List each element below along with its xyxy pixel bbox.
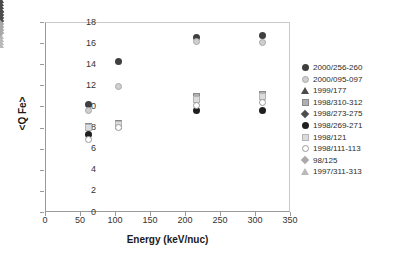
legend-item[interactable]: 1998/310-312 <box>300 97 393 108</box>
y-axis-tick-label: 2 <box>56 186 96 195</box>
marker-glyph <box>302 134 309 141</box>
legend-marker-icon <box>300 155 310 166</box>
y-axis-tick-mark <box>40 191 44 192</box>
y-axis-tick-mark <box>40 64 44 65</box>
legend-item-label: 1997/311-313 <box>313 166 362 177</box>
chart-legend: 2000/256-2602000/095-0971999/1771998/310… <box>300 62 393 178</box>
legend-item-label: 1998/273-275 <box>313 108 362 119</box>
x-axis-tick-label: 350 <box>270 216 310 225</box>
legend-marker-icon <box>300 132 310 143</box>
data-point <box>85 136 92 143</box>
y-axis-tick-mark <box>40 212 44 213</box>
y-axis-title: <Q Fe> <box>17 54 28 174</box>
legend-item-label: 1998/310-312 <box>313 97 362 108</box>
data-point <box>193 102 200 109</box>
x-axis-tick-mark <box>115 212 116 216</box>
x-axis-tick-label: 100 <box>95 216 135 225</box>
y-axis-tick-label: 14 <box>56 60 96 69</box>
x-axis-tick-mark <box>255 212 256 216</box>
legend-item-label: 2000/256-260 <box>313 62 362 73</box>
legend-item[interactable]: 1998/121 <box>300 132 393 143</box>
marker-glyph <box>301 156 309 164</box>
x-axis-tick-mark <box>290 212 291 216</box>
marker-glyph <box>302 64 309 71</box>
data-point <box>115 83 122 90</box>
data-point <box>115 124 122 131</box>
x-axis-tick-label: 150 <box>130 216 170 225</box>
legend-item-label: 98/125 <box>313 155 337 166</box>
data-point <box>259 99 266 106</box>
x-axis-tick-label: 250 <box>200 216 240 225</box>
marker-glyph <box>301 110 309 118</box>
legend-item[interactable]: 1998/111-113 <box>300 143 393 154</box>
x-axis-tick-mark <box>80 212 81 216</box>
x-axis-tick-mark <box>150 212 151 216</box>
legend-marker-icon <box>300 97 310 108</box>
y-axis-tick-mark <box>40 43 44 44</box>
y-axis-tick-label: 4 <box>56 165 96 174</box>
legend-item-label: 1998/111-113 <box>313 143 361 154</box>
legend-marker-icon <box>300 166 310 177</box>
y-axis-tick-label: 16 <box>56 39 96 48</box>
y-axis-tick-label: 18 <box>56 18 96 27</box>
x-axis-tick-mark <box>220 212 221 216</box>
marker-glyph <box>302 145 309 152</box>
legend-item[interactable]: 1998/269-271 <box>300 120 393 131</box>
y-axis-tick-mark <box>40 128 44 129</box>
y-axis-tick-mark <box>40 106 44 107</box>
y-axis-tick-label: 12 <box>56 81 96 90</box>
chart-figure: 024681012141618050100150200250300350 Ene… <box>0 0 393 275</box>
legend-item[interactable]: 1998/273-275 <box>300 108 393 119</box>
marker-glyph <box>302 76 309 83</box>
x-axis-tick-mark <box>185 212 186 216</box>
x-axis-tick-label: 50 <box>60 216 100 225</box>
plot-area <box>45 22 290 212</box>
data-point <box>259 39 266 46</box>
x-axis-tick-mark <box>45 212 46 216</box>
y-axis-tick-mark <box>40 149 44 150</box>
data-point <box>259 107 266 114</box>
y-axis-tick-mark <box>40 22 44 23</box>
legend-item[interactable]: 98/125 <box>300 155 393 166</box>
legend-marker-icon <box>300 120 310 131</box>
legend-item[interactable]: 2000/095-097 <box>300 74 393 85</box>
marker-glyph <box>301 168 309 175</box>
data-point <box>85 124 92 131</box>
legend-marker-icon <box>300 108 310 119</box>
data-point <box>193 38 200 45</box>
legend-item-label: 2000/095-097 <box>313 74 362 85</box>
marker-glyph <box>301 87 309 94</box>
data-point <box>115 58 122 65</box>
legend-marker-icon <box>300 62 310 73</box>
legend-marker-icon <box>300 143 310 154</box>
x-axis-tick-label: 300 <box>235 216 275 225</box>
legend-item[interactable]: 1999/177 <box>300 85 393 96</box>
legend-item-label: 1998/121 <box>313 132 346 143</box>
legend-item-label: 1998/269-271 <box>313 120 362 131</box>
legend-item[interactable]: 1997/311-313 <box>300 166 393 177</box>
x-axis-tick-label: 200 <box>165 216 205 225</box>
legend-marker-icon <box>300 85 310 96</box>
y-axis-tick-mark <box>40 85 44 86</box>
legend-item[interactable]: 2000/256-260 <box>300 62 393 73</box>
marker-glyph <box>302 99 309 106</box>
marker-glyph <box>302 122 309 129</box>
x-axis-title: Energy (keV/nuc) <box>45 234 290 245</box>
y-axis-tick-mark <box>40 170 44 171</box>
legend-marker-icon <box>300 74 310 85</box>
data-point <box>85 107 92 114</box>
y-axis-tick-label: 6 <box>56 144 96 153</box>
x-axis-tick-label: 0 <box>25 216 65 225</box>
data-point <box>0 41 4 48</box>
legend-item-label: 1999/177 <box>313 85 346 96</box>
